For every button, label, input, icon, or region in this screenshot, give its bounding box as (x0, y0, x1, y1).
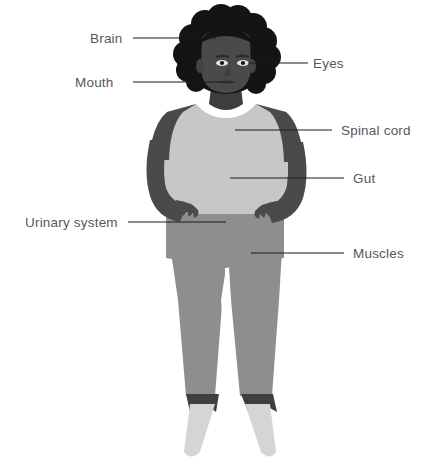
pants-group (166, 210, 284, 396)
callout-label-mouth: Mouth (75, 76, 114, 90)
illustration-canvas: BrainMouthEyesSpinal cordGutUrinary syst… (0, 0, 434, 471)
pupil-right (241, 61, 245, 65)
tank-top (163, 104, 291, 214)
ear-left (196, 59, 204, 73)
callout-label-brain: Brain (90, 32, 123, 46)
pants-hip-block (166, 210, 284, 268)
torso-group (163, 88, 291, 214)
ear-right (248, 59, 256, 73)
shoe-left (184, 404, 215, 457)
callout-label-urinary-system: Urinary system (25, 216, 118, 230)
callout-label-gut: Gut (353, 172, 375, 186)
callout-label-spinal-cord: Spinal cord (341, 124, 411, 138)
callout-label-eyes: Eyes (313, 57, 344, 71)
shoes-group (184, 404, 276, 457)
shoe-right (245, 404, 276, 457)
callout-label-muscles: Muscles (353, 247, 404, 261)
body-figure (0, 0, 434, 471)
pupil-left (220, 61, 224, 65)
head-group (173, 4, 281, 94)
